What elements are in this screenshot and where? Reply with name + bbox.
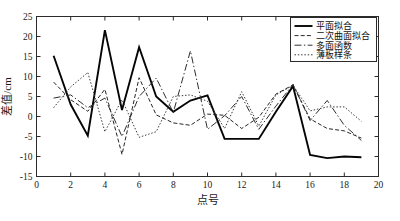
legend-label-3: 薄板样条 — [316, 49, 352, 60]
y-tick-label: 20 — [23, 32, 33, 42]
chart-legend: 平面拟合二次曲面拟合多面函数薄板样条 — [291, 18, 377, 62]
x-tick-label: 6 — [137, 180, 142, 190]
y-tick-label: -10 — [20, 152, 33, 162]
legend-label-1: 二次曲面拟合 — [316, 30, 370, 41]
legend-label-0: 平面拟合 — [316, 20, 352, 31]
chart-figure: 02468101214161820-15-10-50510152025 平面拟合… — [0, 0, 400, 221]
x-tick-label: 2 — [68, 180, 73, 190]
y-tick-label: 15 — [23, 52, 33, 62]
x-tick-label: 18 — [340, 180, 350, 190]
x-tick-label: 0 — [34, 180, 39, 190]
x-tick-label: 12 — [237, 180, 247, 190]
y-tick-label: 10 — [23, 72, 33, 82]
x-tick-label: 20 — [374, 180, 384, 190]
y-tick-label: -5 — [25, 132, 33, 142]
y-tick-label: -15 — [20, 172, 33, 182]
y-tick-label: 5 — [28, 92, 33, 102]
x-axis-title: 点号 — [197, 194, 219, 206]
x-tick-label: 8 — [171, 180, 176, 190]
x-tick-label: 16 — [305, 180, 315, 190]
y-tick-label: 25 — [23, 12, 33, 22]
y-axis-title: 差值/cm — [0, 77, 13, 116]
series-line-1 — [54, 78, 362, 155]
y-tick-label: 0 — [28, 112, 33, 122]
x-tick-label: 10 — [203, 180, 213, 190]
x-tick-label: 4 — [103, 180, 108, 190]
line-chart-svg: 02468101214161820-15-10-50510152025 平面拟合… — [0, 0, 400, 221]
x-tick-label: 14 — [271, 180, 281, 190]
legend-label-2: 多面函数 — [316, 40, 352, 51]
